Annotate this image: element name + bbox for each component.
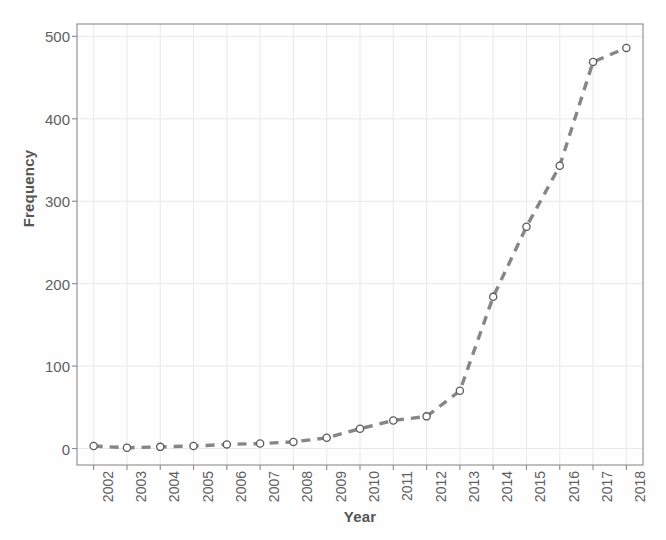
data-point-marker — [257, 440, 264, 447]
data-point-marker — [356, 425, 363, 432]
plot-area — [0, 0, 666, 540]
grid-lines — [77, 24, 643, 465]
data-point-marker — [90, 442, 97, 449]
data-point-marker — [223, 441, 230, 448]
data-point-marker — [290, 438, 297, 445]
axis-tick-marks — [72, 36, 626, 470]
data-point-marker — [323, 434, 330, 441]
data-point-marker — [589, 58, 596, 65]
data-point-marker — [390, 417, 397, 424]
data-point-marker — [623, 44, 630, 51]
data-point-marker — [523, 223, 530, 230]
data-point-marker — [556, 162, 563, 169]
data-point-marker — [456, 387, 463, 394]
data-point-marker — [123, 444, 130, 451]
data-point-marker — [157, 443, 164, 450]
data-point-marker — [490, 293, 497, 300]
data-point-marker — [190, 442, 197, 449]
chart-figure: Frequency Year 0100200300400500 20022003… — [0, 0, 666, 540]
data-point-marker — [423, 413, 430, 420]
